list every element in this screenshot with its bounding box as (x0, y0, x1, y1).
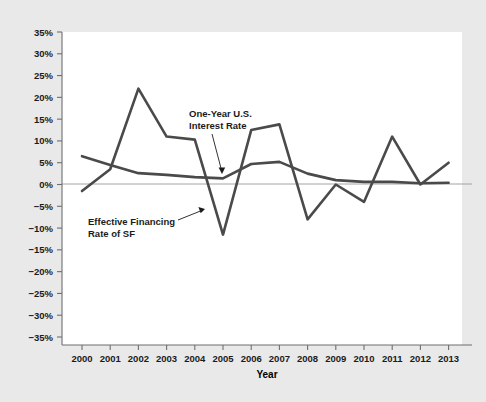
annotation-label-line1: One-Year U.S. (189, 108, 252, 119)
y-axis-tick-label: 10% (34, 135, 54, 146)
x-axis-tick-label: 2009 (325, 353, 346, 364)
x-axis-tick-label: 2011 (382, 353, 403, 364)
x-axis-tick-label: 2005 (212, 353, 234, 364)
y-axis-tick-label: −25% (28, 288, 53, 299)
y-axis-tick-label: 20% (34, 92, 54, 103)
annotation-label-line2: Rate of SF (88, 228, 135, 239)
y-axis-tick-label: −20% (28, 266, 53, 277)
y-axis-tick-label: 35% (34, 27, 54, 38)
x-axis-tick-label: 2004 (184, 353, 206, 364)
x-axis-tick-label: 2010 (353, 353, 374, 364)
y-axis-tick-label: 30% (34, 48, 54, 59)
x-axis-title: Year (256, 369, 277, 380)
x-axis-tick-label: 2007 (269, 353, 290, 364)
y-axis-tick-label: −30% (28, 310, 53, 321)
y-axis-tick-label: 0% (39, 179, 53, 190)
chart-container: 35%30%25%20%15%10%5%0%−5%−10%−15%−20%−25… (0, 0, 486, 402)
y-axis-tick-label: −35% (28, 332, 53, 343)
x-axis-tick-label: 2001 (100, 353, 122, 364)
plot-area-background (62, 32, 462, 345)
x-axis-tick-label: 2013 (438, 353, 459, 364)
y-axis-tick-label: −15% (28, 244, 53, 255)
y-axis-tick-label: 15% (34, 114, 54, 125)
x-axis-tick-label: 2002 (128, 353, 149, 364)
x-axis-tick-label: 2003 (156, 353, 177, 364)
line-chart: 35%30%25%20%15%10%5%0%−5%−10%−15%−20%−25… (0, 0, 486, 402)
x-axis-tick-label: 2012 (410, 353, 431, 364)
x-axis-tick-label: 2008 (297, 353, 318, 364)
y-axis-tick-label: 5% (39, 157, 53, 168)
x-axis-tick-label: 2000 (71, 353, 92, 364)
annotation-label-line1: Effective Financing (88, 216, 175, 227)
y-axis-tick-label: −5% (34, 201, 54, 212)
y-axis-tick-label: −10% (28, 223, 53, 234)
x-axis-tick-label: 2006 (241, 353, 262, 364)
y-axis-tick-label: 25% (34, 70, 54, 81)
annotation-label-line2: Interest Rate (189, 120, 247, 131)
